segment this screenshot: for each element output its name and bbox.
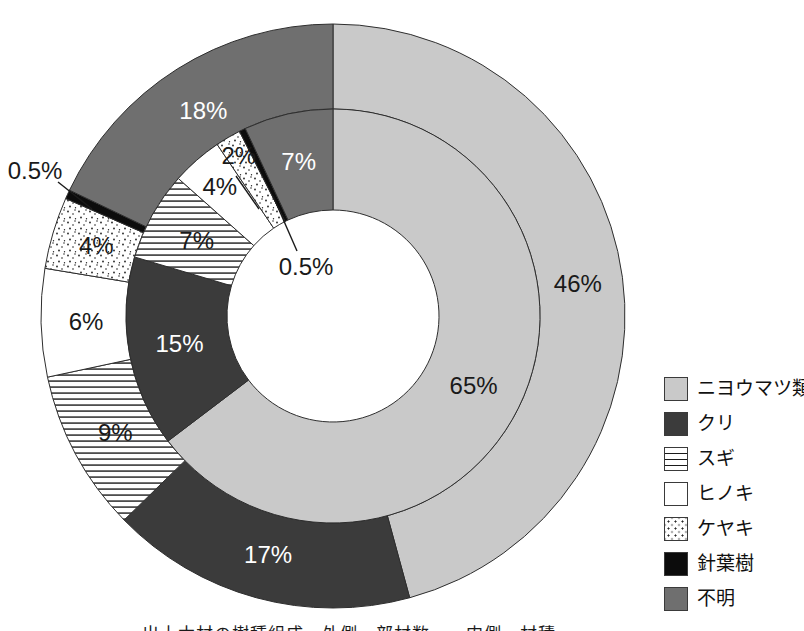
chart-legend: ニヨウマツ類クリスギヒノキケヤキ針葉樹不明 (664, 376, 804, 621)
slice-label-inner-0: 65% (450, 372, 498, 399)
donut-slices (41, 24, 625, 608)
slice-label-outer-4: 4% (79, 232, 114, 259)
slice-label-inner-6: 7% (281, 148, 316, 175)
legend-label: 不明 (697, 586, 735, 611)
slice-label-inner-3: 4% (202, 173, 237, 200)
slice-label-inner-5: 0.5% (279, 253, 334, 280)
slice-label-inner-1: 15% (155, 330, 203, 357)
legend-item-2: スギ (664, 446, 804, 471)
legend-swatch-dots (664, 517, 688, 541)
legend-swatch-lines (664, 447, 688, 471)
legend-item-5: 針葉樹 (664, 551, 804, 576)
slice-label-outer-3: 6% (69, 308, 104, 335)
legend-swatch-charcoal (664, 412, 688, 436)
legend-swatch-lightgray (664, 377, 688, 401)
legend-swatch-gray (664, 587, 688, 611)
slice-label-outer-0: 46% (554, 270, 602, 297)
legend-item-6: 不明 (664, 586, 804, 611)
legend-label: スギ (697, 446, 735, 471)
slice-label-outer-1: 17% (244, 541, 292, 568)
slice-label-inner-2: 7% (179, 227, 214, 254)
legend-label: クリ (697, 411, 735, 436)
legend-item-3: ヒノキ (664, 481, 804, 506)
legend-item-4: ケヤキ (664, 516, 804, 541)
legend-item-0: ニヨウマツ類 (664, 376, 804, 401)
legend-label: ヒノキ (697, 481, 754, 506)
slice-label-outer-5: 0.5% (8, 157, 63, 184)
slice-label-inner-4: 2% (221, 142, 256, 169)
legend-swatch-white (664, 482, 688, 506)
slice-label-outer-2: 9% (98, 419, 133, 446)
figure: 46%17%9%6%4%0.5%18%65%15%7%4%2%0.5%7% ニヨ… (0, 0, 804, 631)
legend-item-1: クリ (664, 411, 804, 436)
figure-caption: 出土木材の樹種組成 外側・部材数 内側・材積 (142, 620, 556, 631)
legend-label: ケヤキ (697, 516, 754, 541)
legend-label: 針葉樹 (697, 551, 754, 576)
legend-label: ニヨウマツ類 (697, 376, 804, 401)
slice-label-outer-6: 18% (179, 97, 227, 124)
legend-swatch-black (664, 552, 688, 576)
